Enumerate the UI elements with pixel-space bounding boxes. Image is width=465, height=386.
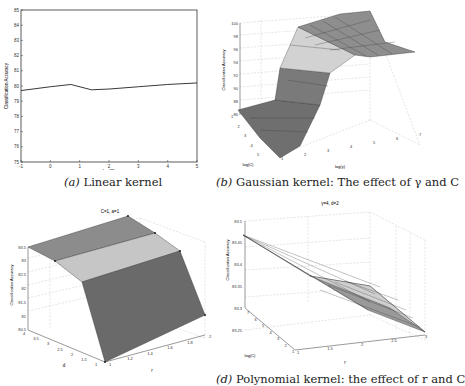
chart-a-ylabel: Classification Accuracy [4, 62, 9, 109]
logc-tick-label: 4 [250, 143, 253, 148]
r-tick-label: 1 [109, 362, 112, 367]
z-tick-label: 86 [234, 112, 239, 117]
z-tick-label: 83.5 [234, 219, 243, 224]
y-tick-label: 85 [14, 8, 20, 13]
z-tick-label: 82 [22, 286, 27, 291]
y-tick-label: 82 [14, 53, 20, 58]
r-tick-label: 1.5 [327, 346, 333, 351]
z-tick-label: 100 [231, 21, 238, 26]
loggamma-tick-label: 3 [327, 148, 330, 153]
r-tick-label: 1.6 [167, 345, 173, 350]
caption-b-text: Gaussian kernel: The effect of γ and C [236, 175, 459, 189]
chart-b-ylabel: log(C) [243, 162, 255, 167]
loggamma-tick-label: 6 [396, 136, 399, 141]
z-tick-label: 83.35 [232, 284, 243, 289]
loggamma-tick-label: 1 [281, 156, 284, 161]
loggamma-tick-label: 7 [419, 132, 422, 137]
z-tick-label: 82.5 [18, 272, 27, 277]
caption-d-text: Polynomial kernel: the effect of r and C [236, 372, 465, 386]
r-tick-label: 1.8 [187, 340, 193, 345]
x-tick-label: -1 [19, 164, 23, 169]
y-tick-label: 79 [14, 99, 20, 104]
r-tick-label: 3 [425, 334, 428, 339]
z-tick-label: 98 [234, 34, 239, 39]
d-tick-label: 1 [95, 362, 98, 367]
y-tick-label: 78 [14, 114, 20, 119]
chart-b-plot: 10098969492908886 12345 1234567 Classifi… [220, 0, 439, 172]
y-tick-label: 80 [14, 84, 20, 89]
z-tick-label: 83.3 [234, 306, 243, 311]
chart-b-zlabel: Classification Accuracy [221, 50, 226, 91]
logc-tick-label: 5 [262, 323, 265, 328]
z-tick-label: 96 [234, 47, 239, 52]
chart-d-xlabel: r [344, 360, 346, 365]
chart-c-plot: C=1, a=1 83.58382.58281.58180.5 43.532.5… [0, 190, 220, 377]
chart-a-linear-kernel: 7576777879808182838485 -1012345 Classifi… [0, 0, 220, 190]
z-tick-label: 83 [22, 258, 27, 263]
y-tick-label: 77 [14, 129, 20, 134]
x-tick-label: 0 [49, 164, 52, 169]
chart-a-plot: 7576777879808182838485 -1012345 Classifi… [0, 0, 220, 170]
y-tick-label: 84 [14, 23, 20, 28]
logc-tick-label: 3 [244, 133, 247, 138]
chart-d-plot: γ=4, d=2 83 [220, 190, 439, 377]
chart-c-title: C=1, a=1 [101, 209, 120, 214]
logc-tick-label: 2 [237, 124, 240, 129]
caption-d-label: (d) [216, 372, 232, 386]
caption-b: (b) Gaussian kernel: The effect of γ and… [216, 175, 459, 189]
z-tick-label: 81 [22, 314, 27, 319]
z-tick-label: 83.5 [18, 245, 27, 250]
d-tick-label: 1.5 [81, 357, 87, 362]
chart-c-rlabel: r [151, 368, 153, 373]
r-tick-label: 1.4 [147, 351, 153, 356]
loggamma-tick-label: 2 [304, 152, 307, 157]
r-tick-label: 2.5 [391, 338, 397, 343]
z-tick-label: 94 [234, 60, 239, 65]
x-tick-label: 1 [78, 164, 81, 169]
r-tick-label: 2 [209, 334, 212, 339]
d-tick-label: 2 [71, 352, 74, 357]
y-tick-label: 76 [14, 144, 20, 149]
z-tick-label: 88 [234, 99, 239, 104]
chart-d-polynomial-kernel: γ=4, d=2 83 [220, 190, 439, 377]
caption-d: (d) Polynomial kernel: the effect of r a… [216, 372, 465, 386]
d-tick-label: 3.5 [33, 336, 39, 341]
chart-c-zlabel: Classification Accuracy [9, 265, 14, 306]
z-tick-label: 90 [234, 86, 239, 91]
loggamma-tick-label: 5 [373, 140, 376, 145]
caption-a: (a) Linear kernel [64, 175, 162, 189]
loggamma-tick-label: 4 [350, 144, 353, 149]
logc-tick-label: 6 [254, 317, 257, 322]
y-tick-label: 81 [14, 68, 20, 73]
z-tick-label: 83.45 [232, 240, 243, 245]
caption-a-label: (a) [64, 175, 80, 189]
caption-b-label: (b) [216, 175, 232, 189]
chart-d-zlabel: Classification Accuracy [225, 240, 230, 281]
z-tick-label: 83.4 [234, 262, 243, 267]
chart-c-dlabel: d [63, 363, 66, 368]
r-tick-label: 1 [297, 350, 300, 355]
r-tick-label: 1.2 [127, 356, 133, 361]
caption-a-text: Linear kernel [84, 175, 163, 189]
chart-b-xlabel: log(γ) [335, 164, 346, 169]
x-tick-label: 5 [196, 164, 199, 169]
x-tick-label: 4 [166, 164, 169, 169]
chart-d-title: γ=4, d=2 [321, 201, 339, 206]
z-tick-label: 81.5 [18, 300, 27, 305]
d-tick-label: 2.5 [57, 347, 63, 352]
chart-c-polynomial-surface: C=1, a=1 83.58382.58281.58180.5 43.532.5… [0, 190, 220, 377]
chart-b-gaussian-kernel: 10098969492908886 12345 1234567 Classifi… [220, 0, 439, 190]
z-tick-label: 83.25 [232, 328, 243, 333]
y-tick-label: 83 [14, 38, 20, 43]
r-tick-label: 2 [361, 342, 364, 347]
x-tick-label: 3 [137, 164, 140, 169]
chart-d-ylabel: log(C) [245, 353, 257, 358]
chart-a-xlabel: log(C) [103, 169, 116, 170]
logc-tick-label: 5 [257, 152, 260, 157]
d-tick-label: 3 [47, 341, 50, 346]
logc-tick-label: 7 [247, 310, 250, 315]
z-tick-label: 92 [234, 73, 239, 78]
